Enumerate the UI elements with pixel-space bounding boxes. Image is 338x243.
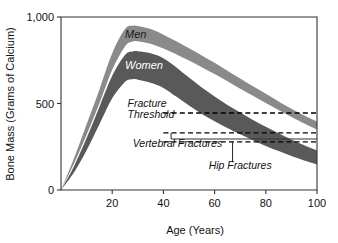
y-axis-title: Bone Mass (Grams of Calcium) [4, 27, 16, 180]
chart-svg: 1,000 500 0 20 40 60 80 100 Age (Years) … [0, 0, 338, 243]
fracture-threshold-label-line2: Threshold [128, 108, 176, 120]
x-tick-label-80: 80 [260, 197, 272, 209]
vertebral-fractures-label: Vertebral Fractures [133, 137, 223, 149]
y-tick-label-500: 500 [36, 98, 54, 110]
y-tick-label-1000: 1,000 [26, 11, 54, 23]
women-band-label: Women [125, 59, 163, 71]
x-tick-label-40: 40 [157, 197, 169, 209]
x-tick-label-60: 60 [208, 197, 220, 209]
y-tick-label-0: 0 [48, 184, 54, 196]
x-tick-label-20: 20 [106, 197, 118, 209]
men-band-label: Men [125, 28, 146, 40]
hip-fractures-label: Hip Fractures [209, 159, 273, 171]
x-axis-title: Age (Years) [166, 224, 224, 236]
x-tick-label-100: 100 [308, 197, 326, 209]
bone-mass-chart: 1,000 500 0 20 40 60 80 100 Age (Years) … [0, 0, 338, 243]
fracture-threshold-label-line1: Fracture [128, 97, 167, 109]
